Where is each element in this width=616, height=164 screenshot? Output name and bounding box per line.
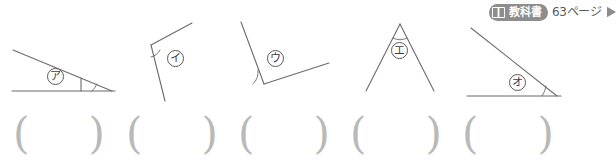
answer-3-close-paren: )	[314, 112, 330, 156]
figure-3-label: ウ	[267, 50, 284, 67]
figure-4: エ	[348, 14, 460, 110]
figure-2: イ	[130, 14, 235, 110]
answer-1-close-paren: )	[89, 112, 105, 156]
figure-2-label: イ	[167, 50, 184, 67]
figure-5: オ	[462, 14, 584, 110]
figure-4-drawing	[348, 14, 460, 110]
answer-3-open-paren: (	[238, 112, 254, 156]
answer-1[interactable]: ( )	[9, 112, 109, 158]
figure-1: ア	[4, 14, 126, 110]
answer-5-open-paren: (	[462, 112, 478, 156]
figure-5-drawing	[462, 14, 584, 110]
answer-4-open-paren: (	[350, 112, 366, 156]
angle-worksheet: 教科書 63ページ ア	[0, 0, 616, 164]
answer-4[interactable]: ( )	[346, 112, 446, 158]
figure-1-drawing	[4, 14, 126, 110]
answers-row: ( ) ( ) ( ) ( ) ( )	[0, 112, 616, 162]
figure-4-label: エ	[391, 42, 408, 59]
figure-5-label: オ	[509, 74, 526, 91]
figures-row: ア イ ウ	[0, 14, 616, 110]
answer-1-open-paren: (	[13, 112, 29, 156]
figure-3-drawing	[236, 14, 346, 110]
answer-5[interactable]: ( )	[458, 112, 558, 158]
figure-3: ウ	[236, 14, 346, 110]
answer-4-close-paren: )	[426, 112, 442, 156]
figure-1-label: ア	[47, 68, 64, 85]
answer-3[interactable]: ( )	[234, 112, 334, 158]
answer-2-close-paren: )	[202, 112, 218, 156]
answer-5-close-paren: )	[538, 112, 554, 156]
answer-2-open-paren: (	[126, 112, 142, 156]
answer-2[interactable]: ( )	[122, 112, 222, 158]
